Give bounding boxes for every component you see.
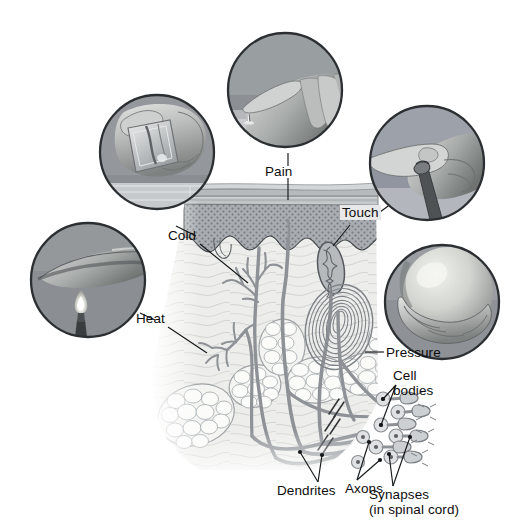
label-cold: Cold — [168, 228, 196, 243]
label-synapses-line2: (in spinal cord) — [369, 502, 459, 517]
label-touch: Touch — [340, 205, 381, 220]
touch-photo — [370, 106, 484, 220]
label-synapses-line1: Synapses — [369, 487, 429, 502]
pressure-photo — [385, 245, 499, 359]
label-heat: Heat — [136, 311, 165, 326]
sensory-receptor-figure: Pain Cold Touch Heat Pressure Cell bodie… — [0, 0, 519, 531]
label-pain: Pain — [265, 164, 292, 179]
label-cell-bodies: Cell bodies — [393, 368, 459, 398]
label-cell-bodies-line2: bodies — [393, 383, 433, 398]
label-dendrites: Dendrites — [277, 483, 336, 498]
stimulus-photos-layer — [0, 0, 519, 531]
label-synapses: Synapses (in spinal cord) — [369, 487, 499, 517]
label-cell-bodies-line1: Cell — [393, 368, 417, 383]
cold-photo — [100, 95, 214, 209]
label-pressure: Pressure — [386, 345, 441, 360]
pain-photo — [228, 33, 355, 147]
heat-photo — [31, 223, 145, 337]
